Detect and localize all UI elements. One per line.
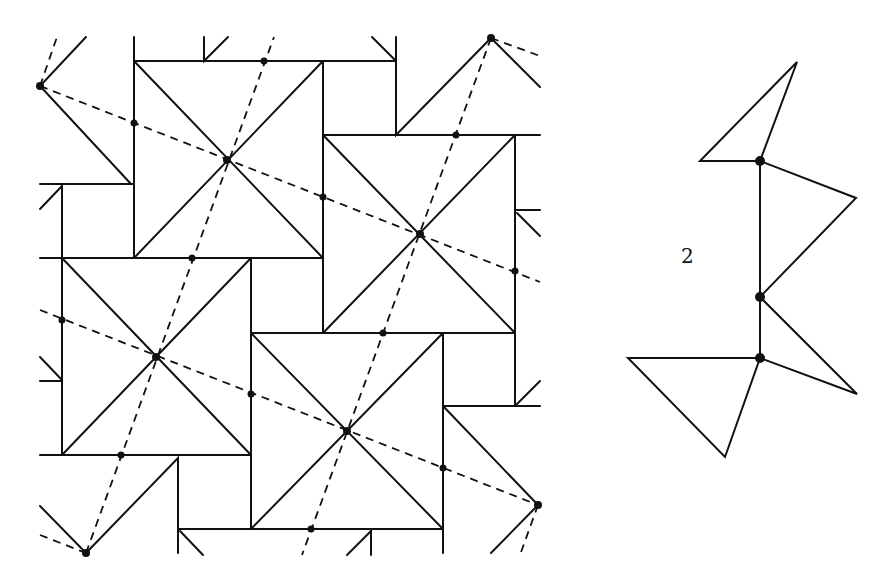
fundamental-motif bbox=[628, 62, 857, 457]
connecting-edges bbox=[40, 37, 540, 555]
squares bbox=[62, 61, 515, 529]
figure-label: 2 bbox=[681, 244, 694, 268]
dashed-lines bbox=[40, 37, 540, 555]
diagonals bbox=[62, 61, 515, 529]
marked-points bbox=[36, 34, 542, 557]
tiling-diagram bbox=[0, 0, 889, 578]
